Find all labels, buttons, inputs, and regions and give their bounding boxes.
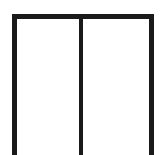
panel-divider — [79, 14, 83, 155]
diagram-canvas — [0, 0, 161, 155]
frame-top-edge — [12, 14, 154, 19]
frame-right-edge — [149, 14, 154, 155]
frame-left-edge — [12, 14, 17, 155]
